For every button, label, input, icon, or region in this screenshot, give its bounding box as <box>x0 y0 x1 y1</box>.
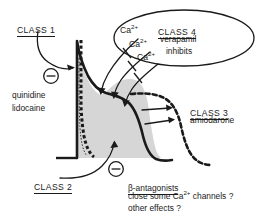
class4-drug-verapamil: verapamil <box>160 35 196 44</box>
class3-pointer-arrowhead-2 <box>168 117 175 123</box>
calcium-ion-label-2: Ca2+ <box>129 40 147 49</box>
class3-drug-amiodarone: amiodarone <box>190 116 234 125</box>
plateau-shaded-area <box>78 50 162 158</box>
class1-heading: CLASS 1 <box>17 19 55 37</box>
figure-canvas: CLASS 1 quinidine lidocaine CLASS 2 β-an… <box>0 0 260 218</box>
beta-antagonists-note-line2: other effects ? <box>128 204 181 213</box>
class4-action-inhibits: inhibits <box>166 47 192 56</box>
class1-drug-quinidine: quinidine <box>12 91 46 100</box>
class1-drug-lidocaine: lidocaine <box>12 104 45 113</box>
class2-heading: CLASS 2 <box>34 176 72 194</box>
calcium-ion-label-1: Ca2+ <box>120 26 138 35</box>
beta-antagonists-note-line1: close some Ca2+ channels ? <box>128 192 233 201</box>
calcium-ion-label-3: Ca2+ <box>137 53 155 62</box>
class1-pointer-arrowhead <box>67 65 75 71</box>
